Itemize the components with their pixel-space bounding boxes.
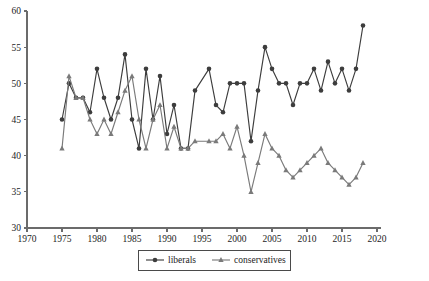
data-point-conservatives bbox=[325, 160, 330, 165]
y-tick-label: 45 bbox=[12, 115, 22, 125]
data-point-liberals bbox=[207, 67, 212, 72]
data-point-liberals bbox=[123, 52, 128, 57]
data-point-conservatives bbox=[241, 153, 246, 158]
data-point-liberals bbox=[263, 45, 268, 50]
data-point-liberals bbox=[312, 67, 317, 72]
data-point-conservatives bbox=[129, 73, 134, 78]
y-tick-label: 55 bbox=[12, 43, 22, 53]
data-point-conservatives bbox=[122, 88, 127, 93]
data-point-conservatives bbox=[171, 124, 176, 129]
y-tick-label: 35 bbox=[12, 187, 22, 197]
data-point-liberals bbox=[242, 81, 247, 86]
y-tick-label: 30 bbox=[12, 223, 22, 233]
y-tick-label: 60 bbox=[12, 6, 22, 16]
data-point-conservatives bbox=[101, 117, 106, 122]
x-tick-label: 2010 bbox=[298, 234, 317, 244]
data-point-conservatives bbox=[262, 131, 267, 136]
data-point-liberals bbox=[172, 103, 177, 108]
y-axis: 30354045505560 bbox=[12, 6, 28, 233]
data-point-liberals bbox=[347, 88, 352, 93]
data-point-conservatives bbox=[360, 160, 365, 165]
x-tick-label: 2020 bbox=[368, 234, 387, 244]
x-tick-label: 1970 bbox=[18, 234, 37, 244]
data-point-liberals bbox=[270, 67, 275, 72]
data-point-conservatives bbox=[164, 146, 169, 151]
data-point-conservatives bbox=[108, 131, 113, 136]
data-point-liberals bbox=[116, 96, 121, 101]
x-tick-label: 1995 bbox=[193, 234, 212, 244]
data-point-liberals bbox=[95, 67, 100, 72]
data-point-liberals bbox=[305, 81, 310, 86]
data-point-conservatives bbox=[234, 124, 239, 129]
chart-legend: liberalsconservatives bbox=[138, 250, 290, 270]
x-tick-label: 2005 bbox=[263, 234, 282, 244]
data-point-liberals bbox=[193, 88, 198, 93]
data-point-liberals bbox=[144, 67, 149, 72]
data-point-liberals bbox=[256, 88, 261, 93]
data-point-conservatives bbox=[220, 131, 225, 136]
data-point-liberals bbox=[102, 96, 107, 101]
data-point-conservatives bbox=[318, 146, 323, 151]
data-point-liberals bbox=[235, 81, 240, 86]
chart-container: 30354045505560 1970197519801985199019952… bbox=[0, 0, 429, 281]
data-point-liberals bbox=[361, 23, 366, 28]
data-point-liberals bbox=[158, 74, 163, 79]
legend-label-conservatives: conservatives bbox=[234, 255, 286, 265]
data-series-group bbox=[59, 23, 365, 194]
x-tick-label: 2000 bbox=[228, 234, 247, 244]
data-point-liberals bbox=[130, 117, 135, 122]
legend-label-liberals: liberals bbox=[168, 255, 196, 265]
data-point-liberals bbox=[284, 81, 289, 86]
data-point-conservatives bbox=[115, 109, 120, 114]
data-point-conservatives bbox=[283, 167, 288, 172]
data-point-liberals bbox=[326, 59, 331, 64]
data-point-conservatives bbox=[143, 146, 148, 151]
x-tick-label: 1985 bbox=[123, 234, 142, 244]
data-point-liberals bbox=[60, 117, 65, 122]
data-point-conservatives bbox=[136, 117, 141, 122]
data-point-liberals bbox=[354, 67, 359, 72]
data-point-liberals bbox=[228, 81, 233, 86]
data-point-liberals bbox=[249, 139, 254, 144]
series-line-conservatives bbox=[62, 76, 363, 192]
data-point-conservatives bbox=[255, 160, 260, 165]
data-point-liberals bbox=[291, 103, 296, 108]
data-point-conservatives bbox=[248, 189, 253, 194]
x-axis: 1970197519801985199019952000200520102015… bbox=[18, 228, 387, 244]
data-point-liberals bbox=[221, 110, 226, 115]
series-liberals bbox=[60, 23, 366, 151]
data-point-liberals bbox=[277, 81, 282, 86]
line-chart: 30354045505560 1970197519801985199019952… bbox=[0, 0, 429, 281]
x-tick-label: 2015 bbox=[333, 234, 352, 244]
legend-marker-circle-icon bbox=[153, 258, 158, 263]
data-point-conservatives bbox=[157, 102, 162, 107]
data-point-liberals bbox=[109, 117, 114, 122]
data-point-liberals bbox=[340, 67, 345, 72]
data-point-conservatives bbox=[269, 146, 274, 151]
x-tick-label: 1975 bbox=[53, 234, 72, 244]
data-point-conservatives bbox=[87, 117, 92, 122]
data-point-liberals bbox=[214, 103, 219, 108]
data-point-conservatives bbox=[59, 146, 64, 151]
data-point-liberals bbox=[137, 146, 142, 151]
data-point-conservatives bbox=[94, 131, 99, 136]
data-point-liberals bbox=[333, 81, 338, 86]
data-point-liberals bbox=[319, 88, 324, 93]
series-line-liberals bbox=[62, 25, 363, 148]
x-tick-label: 1990 bbox=[158, 234, 177, 244]
data-point-conservatives bbox=[66, 73, 71, 78]
data-point-conservatives bbox=[227, 146, 232, 151]
y-tick-label: 40 bbox=[12, 151, 22, 161]
data-point-liberals bbox=[298, 81, 303, 86]
y-tick-label: 50 bbox=[12, 79, 22, 89]
x-tick-label: 1980 bbox=[88, 234, 107, 244]
data-point-conservatives bbox=[353, 174, 358, 179]
